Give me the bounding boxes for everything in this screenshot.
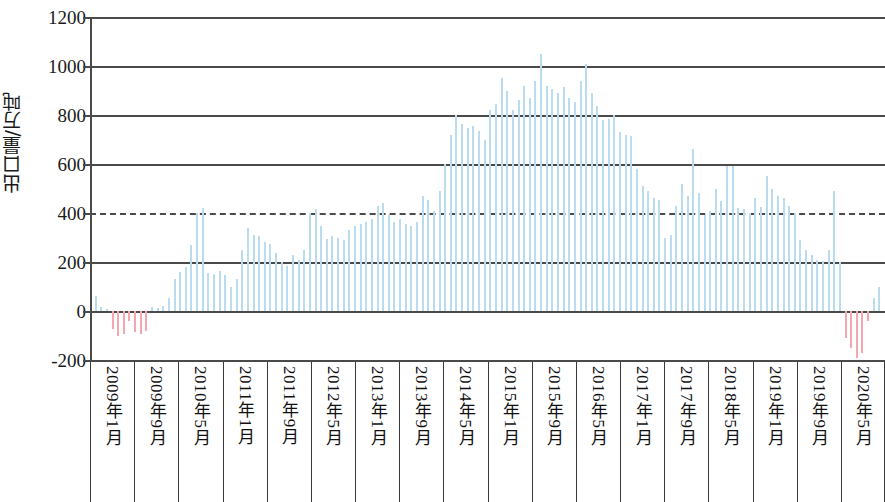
x-tick-label: 2016年5月 [590, 366, 607, 446]
x-tick-label: 2017年9月 [678, 366, 695, 446]
bar [867, 311, 869, 321]
bar [664, 238, 666, 312]
bar [625, 135, 627, 311]
bar [427, 200, 429, 311]
bar [596, 106, 598, 311]
bar [613, 115, 615, 311]
bar [275, 253, 277, 311]
x-axis-label-strip: 2009年1月2009年9月2010年5月2011年1月2011年9月2012年… [90, 360, 885, 502]
bar [580, 81, 582, 311]
bar [619, 132, 621, 311]
bar [602, 120, 604, 311]
bar [766, 176, 768, 311]
bar [568, 98, 570, 311]
x-axis-cell: 2009年9月 [134, 362, 178, 502]
bar [292, 255, 294, 311]
bar [326, 239, 328, 311]
bar [737, 208, 739, 311]
bar [709, 211, 711, 311]
bar [518, 100, 520, 311]
bar [878, 287, 880, 312]
x-tick-label: 2011年9月 [281, 366, 298, 445]
y-tick-mark [83, 164, 90, 166]
y-tick-mark [83, 115, 90, 117]
bar [236, 279, 238, 311]
bar [331, 236, 333, 311]
y-tick-label: 0 [28, 302, 86, 321]
bar [388, 215, 390, 311]
bar [213, 274, 215, 311]
bar [833, 191, 835, 311]
x-axis-cell: 2015年9月 [532, 362, 576, 502]
y-tick-label: 600 [28, 155, 86, 174]
bar [405, 224, 407, 311]
bar [799, 240, 801, 311]
bar [393, 222, 395, 311]
bar [303, 250, 305, 311]
bar [828, 250, 830, 311]
bar [788, 206, 790, 311]
plot-area [90, 17, 885, 360]
x-tick-label: 2020年5月 [855, 366, 872, 446]
bar [269, 244, 271, 311]
bar [258, 236, 260, 311]
x-axis-cell: 2015年1月 [488, 362, 532, 502]
bar [501, 78, 503, 311]
bar [732, 166, 734, 311]
bar [794, 213, 796, 311]
bar [360, 224, 362, 311]
bar [343, 240, 345, 311]
x-tick-label: 2009年1月 [104, 366, 121, 446]
bar [591, 93, 593, 311]
bar [190, 245, 192, 311]
bar [337, 238, 339, 312]
bar [455, 115, 457, 311]
x-tick-label: 2015年1月 [502, 366, 519, 446]
x-axis-cell: 2009年1月 [90, 362, 134, 502]
bar [168, 298, 170, 311]
x-axis-cell: 2018年5月 [708, 362, 752, 502]
bar [202, 208, 204, 311]
bar [241, 250, 243, 311]
x-tick-label: 2015年9月 [546, 366, 563, 446]
bar [715, 189, 717, 312]
bar [495, 104, 497, 311]
bar [382, 203, 384, 311]
x-axis-cell: 2019年9月 [797, 362, 841, 502]
bar [816, 260, 818, 311]
bar [162, 306, 164, 311]
bar [461, 124, 463, 311]
bar [698, 193, 700, 311]
bar [100, 307, 102, 311]
bar [422, 196, 424, 311]
bar [845, 311, 847, 338]
x-axis-cell: 2019年1月 [753, 362, 797, 502]
bar [563, 87, 565, 311]
bar [534, 81, 536, 311]
bar [439, 191, 441, 311]
bar [585, 64, 587, 311]
bar [749, 213, 751, 311]
y-tick-mark [83, 360, 90, 362]
y-tick-label: 200 [28, 253, 86, 272]
bar-series [90, 17, 885, 360]
x-axis-cell: 2013年1月 [355, 362, 399, 502]
bar [196, 213, 198, 311]
bar [410, 226, 412, 311]
bar [675, 206, 677, 311]
bar [647, 191, 649, 311]
bar [399, 219, 401, 311]
y-tick-mark [83, 311, 90, 313]
bar [687, 196, 689, 311]
bar [472, 126, 474, 311]
bar [348, 230, 350, 311]
y-axis-title: 出口量/万吨 [2, 92, 28, 193]
bar [377, 206, 379, 311]
bar [230, 287, 232, 312]
bar [512, 110, 514, 311]
bar [489, 110, 491, 311]
bar [704, 215, 706, 311]
bar [224, 275, 226, 311]
x-axis-cell: 2017年9月 [664, 362, 708, 502]
